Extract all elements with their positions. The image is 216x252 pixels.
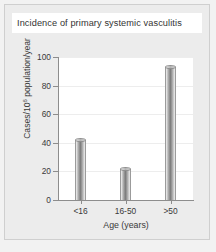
bar	[165, 67, 176, 200]
y-axis-line	[58, 57, 59, 201]
gridline	[58, 57, 193, 58]
y-axis-tick-label: 20	[5, 166, 51, 176]
x-axis-tick-mark	[81, 200, 82, 204]
y-axis-tick-label: 100	[5, 52, 51, 62]
chart-plot-wrapper: Cases/106 population/year 020406080100 A…	[5, 5, 211, 241]
x-axis-tick-mark	[171, 200, 172, 204]
x-axis-title: Age (years)	[58, 220, 194, 230]
bar	[120, 169, 131, 200]
y-axis-tick-label: 60	[5, 109, 51, 119]
y-axis-tick-label: 40	[5, 138, 51, 148]
y-axis-tick-labels: 020406080100	[5, 57, 51, 201]
bar-top-cap	[75, 138, 86, 142]
y-axis-tick-label: 0	[5, 195, 51, 205]
plot-area	[58, 57, 193, 200]
bar-top-cap	[165, 65, 176, 69]
y-axis-tick-mark	[53, 200, 58, 201]
y-axis-tick-mark	[53, 143, 58, 144]
y-axis-tick-mark	[53, 86, 58, 87]
y-axis-tick-mark	[53, 171, 58, 172]
bar	[75, 140, 86, 200]
y-axis-tick-label: 80	[5, 81, 51, 91]
y-axis-tick-mark	[53, 114, 58, 115]
x-axis-tick-label: >50	[145, 206, 197, 216]
bar-top-cap	[120, 167, 131, 171]
y-axis-tick-mark	[53, 57, 58, 58]
x-axis-tick-mark	[126, 200, 127, 204]
chart-card: Incidence of primary systemic vasculitis…	[4, 4, 210, 240]
